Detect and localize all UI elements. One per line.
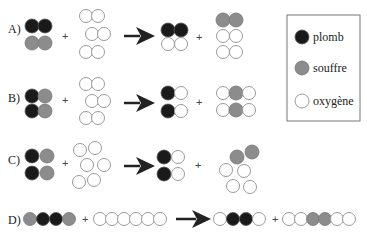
plus-sign: + <box>62 94 68 106</box>
legend-swatch-plomb <box>295 30 309 44</box>
row-b-reactant-pbs <box>25 89 52 118</box>
plus-sign: + <box>272 213 278 225</box>
legend-swatch-oxygene <box>295 94 309 108</box>
row-c-product-s-o <box>220 145 260 194</box>
row-d-product-chain-1 <box>214 213 266 226</box>
legend-label-souffre: souffre <box>313 61 347 75</box>
plus-sign: + <box>196 31 202 43</box>
row-a-product-pbo <box>161 23 188 51</box>
row-a-reactant-pbs <box>25 19 52 50</box>
row-d-reactant-oxygen-chain <box>94 213 167 226</box>
row-c-reactant-o <box>73 142 111 189</box>
row-a-product-so2 <box>216 13 243 59</box>
legend-swatch-souffre <box>295 61 309 75</box>
legend: plomb souffre oxygène <box>287 15 360 121</box>
plus-sign: + <box>62 30 68 42</box>
plus-sign: + <box>62 157 68 169</box>
row-label-d: D) <box>8 213 21 227</box>
row-b-reactant-o2 <box>80 78 111 125</box>
arrow-icon <box>176 210 211 228</box>
row-d-reactant-chain <box>24 213 76 226</box>
row-c-reactant-pbs <box>25 149 54 180</box>
row-label-c: C) <box>8 153 20 167</box>
row-c-product-pbo <box>157 150 185 181</box>
row-b-product-pbo <box>161 86 188 118</box>
plus-sign: + <box>82 213 88 225</box>
row-label-b: B) <box>8 91 20 105</box>
arrow-icon <box>124 94 155 112</box>
plus-sign: + <box>196 96 202 108</box>
arrow-icon <box>124 27 155 45</box>
arrow-icon <box>124 157 155 175</box>
reaction-diagram: A) B) C) D) + + + <box>0 0 367 240</box>
row-b-product-so2 <box>217 86 256 117</box>
legend-label-plomb: plomb <box>313 30 344 44</box>
row-d-product-chain-2 <box>283 213 356 226</box>
legend-label-oxygene: oxygène <box>313 94 354 108</box>
row-label-a: A) <box>8 22 21 36</box>
row-a-reactant-o2 <box>80 10 111 59</box>
plus-sign: + <box>195 159 201 171</box>
